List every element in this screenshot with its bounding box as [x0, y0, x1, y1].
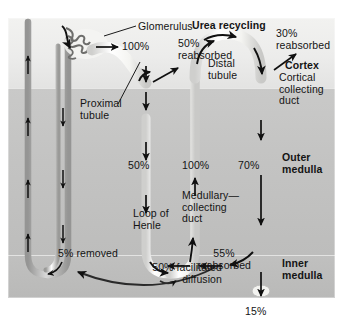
vasa-recta-inner-vessel	[46, 46, 58, 270]
label-inner-medulla: Inner medulla	[282, 258, 322, 281]
vasa-recta-outer-vessel	[28, 22, 68, 275]
value-ascending-100: 100%	[182, 160, 209, 172]
label-cortical-collecting-duct: Cortical collecting duct	[279, 72, 324, 107]
label-distal-tubule: Distal tubule	[208, 58, 237, 81]
label-glomerulus: Glomerulus	[138, 21, 193, 33]
figure-title: Urea recycling	[192, 20, 266, 32]
figure-canvas: Urea recycling Glomerulus 100% 50% reabs…	[0, 0, 343, 329]
label-medullary-collecting-duct: Medullary— collecting duct	[182, 190, 239, 225]
descending-limb-structure	[146, 118, 170, 274]
value-filtered-100: 100%	[122, 41, 149, 53]
proximal-reabsorption-arrow	[153, 68, 178, 82]
label-cortex: Cortex	[285, 60, 319, 72]
label-outer-medulla: Outer medulla	[282, 152, 322, 175]
value-mcd-70: 70%	[238, 160, 259, 172]
value-excreted-15: 15%	[245, 306, 266, 318]
value-vasa-removed: 5% removed	[58, 248, 118, 260]
value-mcd-reabsorbed: 55% reabsorbed	[196, 248, 252, 271]
glomerulus-leader	[104, 26, 136, 36]
value-remaining-50: 50%	[128, 160, 149, 172]
value-ccd-reabsorbed: 30% reabsorbed	[276, 28, 330, 51]
label-loop-of-henle: Loop of Henle	[133, 208, 169, 231]
ascending-limb-structure	[170, 78, 195, 274]
label-proximal-tubule: Proximal tubule	[80, 98, 122, 121]
